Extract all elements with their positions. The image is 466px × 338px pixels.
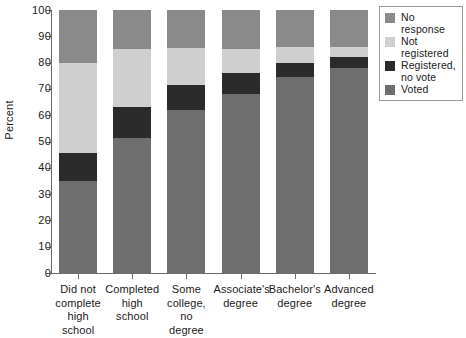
stacked-bar-chart: Percent 0102030405060708090100 Norespons… [0,0,466,338]
legend-label: Notregistered [401,35,463,59]
x-tick-mark [132,274,133,279]
bar-segment [276,63,314,77]
legend-label-line: Voted [401,83,463,95]
bar-segment [59,153,97,181]
legend-label-line: Not [401,35,463,47]
bar-segment [330,10,368,47]
x-category-label: Associate'sdegree [214,283,268,310]
legend-label-line: registered [401,47,463,59]
legend-label-line: no vote [401,71,463,83]
y-tick-label: 50 [9,136,51,147]
bar-segment [222,73,260,94]
y-tick-label: 90 [9,31,51,42]
bar-segment [222,49,260,73]
bar-segment [59,181,97,273]
chart-legend: NoresponseNotregisteredRegistered,no vot… [379,6,463,101]
y-tick-label: 0 [9,268,51,279]
y-tick-label: 40 [9,162,51,173]
x-category-label-line: Advanced [322,283,376,297]
x-category-label-line: Some [159,283,213,297]
x-category-label-line: college, [159,297,213,311]
x-category-label-line: Associate's [214,283,268,297]
y-tick-label: 10 [9,241,51,252]
x-category-label-line: Completed [105,283,159,297]
x-axis-line [51,273,376,274]
x-category-label-line: complete [51,297,105,311]
y-tick-label: 60 [9,110,51,121]
x-category-label: Completedhigh school [105,283,159,324]
bar-segment [330,68,368,273]
x-category-label-line: Did not [51,283,105,297]
legend-label: Registered,no vote [401,59,463,83]
x-tick-mark [186,274,187,279]
y-tick-label: 70 [9,83,51,94]
x-category-label: Somecollege,nodegree [159,283,213,337]
x-category-label-line: no [159,310,213,324]
bar-segment [113,49,151,107]
x-category-label-line: degree [214,297,268,311]
x-category-label-line: Bachelor's [268,283,322,297]
legend-label-line: Registered, [401,59,463,71]
legend-swatch-icon [385,61,395,71]
bar-segment [276,77,314,273]
bar-segment [167,48,205,85]
legend-swatch-icon [385,85,395,95]
bar-segment [330,47,368,58]
legend-label-line: response [401,23,463,35]
y-tick-label: 80 [9,57,51,68]
x-tick-mark [241,274,242,279]
legend-swatch-icon [385,37,395,47]
x-tick-mark [295,274,296,279]
y-tick-label: 100 [9,5,51,16]
bar-column [330,10,368,273]
bar-segment [113,138,151,273]
legend-label-line: No [401,11,463,23]
bar-column [113,10,151,273]
bar-column [222,10,260,273]
bar-segment [59,10,97,63]
bar-column [276,10,314,273]
bar-segment [276,10,314,47]
y-axis-ticks: 0102030405060708090100 [0,0,51,338]
x-category-label-line: degree [322,297,376,311]
x-tick-mark [78,274,79,279]
x-category-label-line: high school [105,297,159,324]
bar-segment [222,10,260,49]
bar-segment [113,10,151,49]
x-category-label-line: degree [159,324,213,338]
bar-column [167,10,205,273]
x-category-label: Did notcompletehighschool [51,283,105,337]
y-tick-label: 30 [9,189,51,200]
x-category-label-line: high [51,310,105,324]
legend-label: Noresponse [401,11,463,35]
legend-label: Voted [401,83,463,95]
x-category-label: Bachelor'sdegree [268,283,322,310]
bar-column [59,10,97,273]
x-category-label-line: school [51,324,105,338]
bar-segment [167,85,205,110]
bar-segment [113,107,151,137]
x-category-label-line: degree [268,297,322,311]
bar-segment [330,57,368,68]
bar-segment [167,110,205,273]
bar-segment [276,47,314,63]
plot-area [51,10,376,273]
y-tick-label: 20 [9,215,51,226]
x-category-label: Advanceddegree [322,283,376,310]
bar-segment [167,10,205,48]
x-tick-mark [349,274,350,279]
bar-segment [59,63,97,154]
bar-segment [222,94,260,273]
legend-swatch-icon [385,13,395,23]
